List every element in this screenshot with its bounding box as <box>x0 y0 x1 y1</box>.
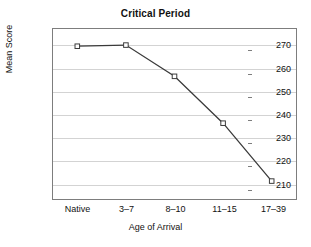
series-line <box>77 45 271 181</box>
x-tick-label: 17–39 <box>244 204 304 214</box>
data-series <box>53 29 296 199</box>
data-point-marker <box>172 74 177 79</box>
data-point-marker <box>124 43 129 48</box>
chart-figure: Critical Period Mean Score 2702602502402… <box>0 0 311 247</box>
x-axis-label: Age of Arrival <box>0 222 311 232</box>
y-axis-label: Mean Score <box>4 4 14 94</box>
chart-title: Critical Period <box>0 8 311 19</box>
data-point-marker <box>221 121 226 126</box>
plot-area: 270260250240230220210 Native3–78–1011–15… <box>52 28 297 200</box>
data-point-marker <box>269 179 274 184</box>
data-point-marker <box>75 44 80 49</box>
